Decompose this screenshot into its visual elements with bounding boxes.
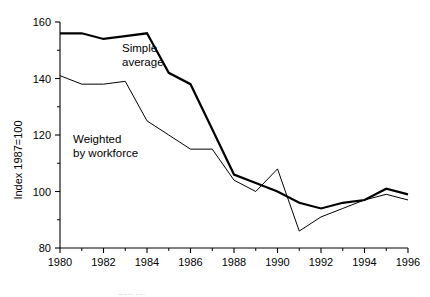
label-simple-average-line1: Simple — [122, 42, 157, 54]
x-tick-label: 1992 — [309, 256, 333, 268]
x-tick-label: 1996 — [396, 256, 420, 268]
y-tick-label: 160 — [33, 16, 51, 28]
y-axis-title-group: Index 1987=100 — [12, 120, 24, 199]
x-tick-label: 1990 — [265, 256, 289, 268]
y-tick-label: 100 — [33, 186, 51, 198]
label-simple-average-line2: average — [122, 56, 164, 68]
x-tick-labels: 198019821984198619881990199219941996 — [48, 256, 420, 268]
x-tick-label: 1984 — [135, 256, 159, 268]
x-tick-label: 1980 — [48, 256, 72, 268]
x-tick-label: 1982 — [91, 256, 115, 268]
label-weighted-line2: by workforce — [73, 147, 138, 159]
y-axis-title: Index 1987=100 — [12, 120, 24, 199]
x-tick-label: 1986 — [178, 256, 202, 268]
y-tick-label: 120 — [33, 129, 51, 141]
y-tick-label: 80 — [39, 242, 51, 254]
y-tick-label: 140 — [33, 73, 51, 85]
x-tick-label: 1994 — [352, 256, 376, 268]
label-weighted-line1: Weighted — [73, 133, 121, 145]
x-tick-label: 1988 — [222, 256, 246, 268]
